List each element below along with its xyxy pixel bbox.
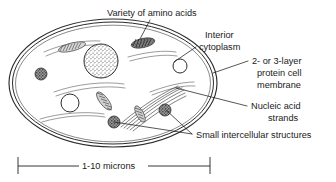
label-amino-acids: Variety of amino acids [107,8,197,18]
scale-bar-caption: 1-10 microns [82,161,136,171]
scale-bar: 1-10 microns [18,157,210,174]
label-small-structures: Small intercellular structures [196,130,312,140]
open-vacuole-left [61,94,79,112]
label-nucleic-acid-line2: strands [268,113,299,123]
label-membrane-line1: 2- or 3-layer [252,56,302,66]
stippled-nucleoid [84,44,118,78]
granule-lower-right [159,104,171,116]
label-membrane-line3: membrane [257,80,301,90]
label-nucleic-acid-line1: Nucleic acid [251,101,301,111]
label-interior-cytoplasm-line2: cytoplasm [199,42,241,52]
leader-membrane [213,61,248,73]
label-membrane-line2: protein cell [257,68,301,78]
cell-diagram-figure: Variety of amino acids Interior cytoplas… [0,0,336,182]
label-interior-cytoplasm-line1: Interior [205,30,234,40]
granule-far-left [35,68,47,80]
